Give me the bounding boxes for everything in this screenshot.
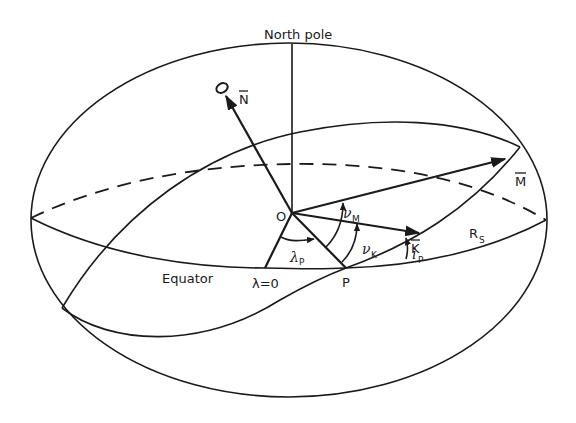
svg-text:N: N (239, 92, 249, 107)
origin-label: O (276, 209, 286, 224)
svg-text:λ: λ (289, 249, 299, 265)
svg-text:M: M (515, 174, 526, 189)
vector-n-label: N (239, 91, 249, 107)
svg-text:i: i (412, 246, 416, 262)
vector-m-label: M (515, 173, 526, 189)
nu-k-label: ν K (362, 241, 378, 260)
svg-text:P: P (299, 257, 305, 267)
vector-m (292, 159, 505, 213)
point-p-label: P (342, 275, 350, 290)
svg-text:ν: ν (362, 241, 371, 257)
north-pole-label: North pole (264, 27, 332, 42)
lambda-p-arc (281, 237, 314, 241)
inclined-circle-lower (62, 147, 520, 337)
svg-text:M: M (352, 214, 360, 224)
equator-back-dashed (31, 164, 546, 220)
svg-text:ν: ν (343, 205, 352, 221)
svg-text:R: R (469, 226, 478, 241)
n-endpoint-circle (215, 81, 230, 95)
celestial-sphere-diagram: North pole N M K R S O P λ=0 Equator ν M… (0, 0, 576, 423)
radius-s-label: R S (469, 226, 485, 245)
i-p-arc (406, 238, 408, 259)
svg-text:S: S (479, 235, 485, 245)
vector-n (215, 81, 292, 213)
lambda-p-label: λ P (289, 249, 305, 267)
lambda-zero-label: λ=0 (252, 276, 279, 291)
equator-label: Equator (162, 271, 214, 286)
nu-m-arc (326, 203, 343, 247)
nu-k-arc (342, 224, 357, 262)
svg-text:P: P (418, 255, 424, 265)
